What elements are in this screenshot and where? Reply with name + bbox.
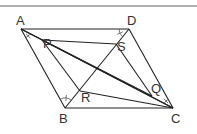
segment-PC (42, 40, 173, 108)
point-label-R: R (81, 90, 90, 105)
point-label-C: C (171, 111, 180, 126)
angle-tick-B (66, 95, 67, 101)
point-label-B: B (59, 111, 68, 126)
geometry-diagram: ABCDPQRS (0, 0, 197, 134)
point-label-A: A (16, 13, 25, 28)
segment-PS (42, 40, 116, 44)
point-label-Q: Q (151, 81, 161, 96)
point-label-S: S (117, 39, 126, 54)
point-label-D: D (127, 13, 136, 28)
point-label-P: P (43, 36, 52, 51)
